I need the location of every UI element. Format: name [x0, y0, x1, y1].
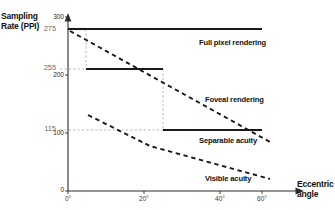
guide-lines	[60, 29, 163, 130]
series-label-foveal-rendering: Foveal rendering	[205, 95, 264, 104]
x-axis-title: Eccentric angle	[297, 180, 335, 200]
x-tick-label-20: 20°	[134, 195, 154, 202]
series-separable-acuity	[70, 31, 270, 142]
y-tick-label-275: 275	[30, 24, 56, 33]
series-visible-acuity	[88, 115, 270, 179]
series-label-separable-acuity: Separable acuity	[199, 136, 257, 145]
y-tick-label-0: 0	[38, 186, 64, 193]
series-label-visible-acuity: Visible acuity	[205, 174, 251, 183]
y-tick-label-100: 100	[38, 129, 64, 136]
y-tick-label-300: 300	[38, 13, 64, 20]
y-tick-label-200: 200	[38, 71, 64, 78]
x-axis-title-line2: angle	[297, 190, 335, 200]
series-label-full-pixel-rendering: Full pixel rendering	[199, 38, 266, 47]
x-tick-label-0: 0°	[58, 195, 78, 202]
x-tick-label-60: 60°	[252, 195, 272, 202]
chart-figure: Sampling Rate (PPI) Eccentric angle 300 …	[0, 0, 335, 210]
x-tick-label-40: 40°	[210, 195, 230, 202]
